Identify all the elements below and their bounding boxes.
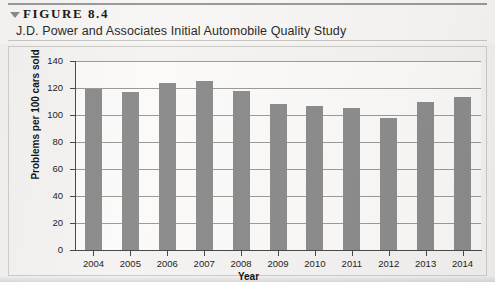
x-tick-label-2013: 2013 — [406, 258, 446, 269]
y-axis-line — [75, 61, 76, 251]
x-tick-2012 — [389, 251, 390, 256]
x-tick-label-2012: 2012 — [369, 258, 409, 269]
x-tick-label-2011: 2011 — [332, 258, 372, 269]
bar-2014 — [454, 97, 471, 250]
triangle-down-icon — [10, 12, 20, 18]
x-tick-2009 — [278, 251, 279, 256]
x-tick-2014 — [463, 251, 464, 256]
caption-bottom-rule — [8, 40, 487, 41]
y-tick-label-40: 40 — [9, 190, 63, 201]
x-tick-label-2004: 2004 — [73, 258, 113, 269]
x-tick-2013 — [426, 251, 427, 256]
x-axis-title: Year — [9, 271, 488, 282]
x-tick-label-2005: 2005 — [110, 258, 150, 269]
bar-2006 — [159, 83, 176, 250]
bar-2013 — [417, 102, 434, 251]
bar-2004 — [85, 89, 102, 250]
x-tick-label-2006: 2006 — [147, 258, 187, 269]
figure-number-row: FIGURE 8.4 — [10, 6, 109, 22]
x-tick-2011 — [352, 251, 353, 256]
figure-page: FIGURE 8.4 J.D. Power and Associates Ini… — [0, 0, 495, 282]
x-tick-2008 — [241, 251, 242, 256]
bar-2005 — [122, 92, 139, 250]
x-tick-2010 — [315, 251, 316, 256]
x-tick-label-2009: 2009 — [258, 258, 298, 269]
bar-2008 — [233, 91, 250, 250]
bar-2011 — [343, 108, 360, 250]
bar-2012 — [380, 118, 397, 250]
x-tick-2005 — [130, 251, 131, 256]
chart-frame: 020406080100120140 200420052006200720082… — [8, 46, 487, 276]
bar-2009 — [270, 104, 287, 250]
x-tick-label-2007: 2007 — [184, 258, 224, 269]
x-tick-label-2014: 2014 — [443, 258, 483, 269]
x-tick-2004 — [93, 251, 94, 256]
caption-top-rule — [8, 3, 487, 5]
x-tick-2006 — [167, 251, 168, 256]
y-axis-title: Problems per 100 cars sold — [30, 40, 41, 190]
y-tick-label-0: 0 — [9, 244, 63, 255]
gridline-140 — [75, 61, 481, 62]
figure-number: FIGURE 8.4 — [23, 6, 109, 22]
y-tick-label-20: 20 — [9, 217, 63, 228]
figure-caption-band: FIGURE 8.4 J.D. Power and Associates Ini… — [0, 0, 495, 44]
x-tick-2007 — [204, 251, 205, 256]
bar-2010 — [306, 106, 323, 250]
gridline-120 — [75, 88, 481, 89]
x-tick-label-2008: 2008 — [221, 258, 261, 269]
figure-caption-text: J.D. Power and Associates Initial Automo… — [16, 24, 346, 38]
x-tick-label-2010: 2010 — [295, 258, 335, 269]
bar-2007 — [196, 81, 213, 250]
